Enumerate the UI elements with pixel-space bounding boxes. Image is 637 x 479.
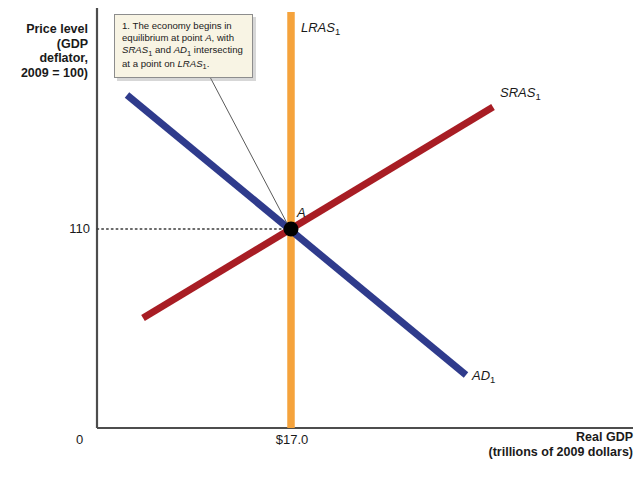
chart-canvas — [0, 0, 637, 479]
ad1-curve-label: AD1 — [472, 368, 495, 383]
callout-leader-line — [210, 77, 289, 227]
lras1-curve-label: LRAS1 — [301, 20, 340, 35]
equilibrium-point-label: A — [297, 205, 306, 220]
lras1-curve-label-subscript: 1 — [335, 26, 340, 37]
callout-text-part5: . — [207, 58, 210, 69]
x-axis-title-line1: Real GDP — [489, 430, 633, 445]
axis-origin-label: 0 — [76, 432, 83, 447]
sras1-curve-label-subscript: 1 — [535, 91, 540, 102]
callout-annotation-box: 1. The economy begins in equilibrium at … — [114, 14, 253, 78]
sras1-curve-label: SRAS1 — [500, 85, 541, 100]
equilibrium-point-marker — [284, 222, 299, 237]
callout-sub-sras: 1 — [148, 49, 152, 58]
callout-sub-lras: 1 — [203, 62, 207, 71]
callout-italic-sras: SRAS — [122, 44, 148, 55]
x-axis-title-line2: (trillions of 2009 dollars) — [489, 445, 633, 460]
x-axis-title: Real GDP (trillions of 2009 dollars) — [489, 430, 633, 460]
ad1-curve-label-subscript: 1 — [490, 374, 495, 385]
callout-sub-ad: 1 — [187, 49, 191, 58]
macroeconomic-equilibrium-figure: Price level (GDP deflator, 2009 = 100) 1… — [0, 0, 637, 479]
callout-italic-ad: AD — [174, 44, 187, 55]
callout-text-part2: , with — [212, 32, 234, 43]
sras1-curve-label-text: SRAS — [500, 85, 535, 100]
y-axis-title: Price level (GDP deflator, 2009 = 100) — [2, 22, 88, 80]
ad1-curve — [127, 95, 466, 375]
lras1-curve-label-text: LRAS — [301, 20, 335, 35]
callout-text-part3: and — [152, 44, 173, 55]
callout-number: 1. — [122, 20, 130, 31]
x-axis-tick-17: $17.0 — [262, 432, 322, 447]
ad1-curve-label-text: AD — [472, 368, 490, 383]
callout-italic-lras: LRAS — [177, 58, 202, 69]
y-axis-tick-110: 110 — [52, 221, 90, 236]
sras1-curve — [143, 107, 493, 318]
